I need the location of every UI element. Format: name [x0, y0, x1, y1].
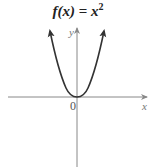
parabola-curve — [50, 31, 77, 97]
x-axis-label: x — [141, 100, 147, 112]
parabola-curve-right — [77, 31, 104, 97]
origin-label: 0 — [70, 99, 76, 113]
graph: y x 0 — [0, 0, 156, 167]
y-axis-label: y — [68, 26, 74, 38]
